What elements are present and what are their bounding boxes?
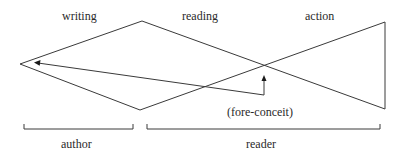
label-author: author — [61, 138, 92, 150]
label-fore-conceit: (fore-conceit) — [227, 106, 293, 118]
label-action: action — [305, 10, 334, 22]
arrowhead-left-icon — [34, 60, 41, 66]
reader-bracket — [147, 124, 380, 129]
bottom-to-right-top-line — [140, 22, 385, 110]
author-bracket — [24, 124, 133, 129]
label-reading: reading — [182, 10, 218, 22]
arrowhead-up-icon — [262, 75, 267, 81]
label-writing: writing — [62, 10, 97, 22]
diagram-lines — [0, 0, 405, 157]
label-reader: reader — [246, 138, 276, 150]
diagram-canvas: writing reading action (fore-conceit) au… — [0, 0, 405, 157]
fore-conceit-arrow-path — [38, 63, 264, 95]
writing-reading-shape — [20, 21, 142, 110]
